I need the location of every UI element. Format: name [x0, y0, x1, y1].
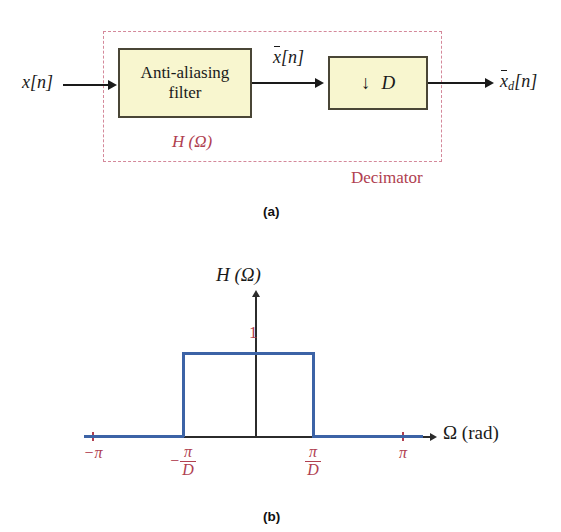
x-axis-arrow-head [430, 433, 437, 441]
x-axis-label: Ω (rad) [443, 422, 499, 444]
anti-aliasing-filter-block: Anti-aliasing filter [118, 48, 252, 118]
numerator-pi-right: π [305, 444, 321, 461]
signal-rising-edge [182, 352, 185, 437]
xtick-label-minus-pi: −π [76, 444, 110, 462]
signal-falling-edge [312, 352, 315, 437]
output-signal-label: xd[n] [500, 71, 537, 94]
signal-left-stopband [84, 435, 184, 438]
intermediate-signal-label: x[n] [273, 47, 304, 68]
plot-title: H (Ω) [216, 264, 261, 286]
output-arrow-head [485, 78, 494, 88]
signal-right-stopband [312, 435, 423, 438]
caption-a: (a) [263, 204, 280, 219]
xtick-label-pi-over-D: π D [295, 444, 331, 479]
figure-decimator: x[n] Anti-aliasing filter H (Ω) x[n] ↓D [0, 0, 561, 532]
down-arrow-icon: ↓ [361, 72, 371, 94]
caption-b: (b) [263, 509, 280, 524]
x-bar-d-glyph: x [500, 71, 508, 92]
mid-arrow-line [252, 82, 316, 84]
filter-label-line1: Anti-aliasing [141, 63, 230, 82]
output-arrow-line [428, 82, 486, 84]
mid-arrow-head [315, 78, 324, 88]
peak-value-label: 1 [249, 323, 258, 343]
y-axis-arrow-head [252, 290, 260, 297]
numerator-pi-left: π [180, 444, 196, 461]
x-bar-glyph: x [273, 47, 281, 68]
minus-sign-glyph: − [170, 452, 180, 470]
downsampler-block: ↓D [328, 56, 428, 110]
filter-label-line2: filter [168, 83, 201, 102]
xtick-label-minus-pi-over-D: − π D [157, 444, 209, 479]
input-arrow-head [108, 80, 117, 90]
y-axis-line [255, 296, 257, 437]
decimator-group-label: Decimator [351, 168, 423, 188]
denominator-D-right: D [305, 461, 321, 479]
xtick-label-pi: π [387, 444, 419, 462]
decimation-factor-label: D [381, 72, 395, 94]
denominator-D-left: D [180, 461, 196, 479]
filter-transfer-function-label: H (Ω) [172, 132, 212, 152]
input-signal-label: x[n] [22, 72, 53, 93]
signal-passband-top [182, 352, 315, 355]
input-arrow-line [63, 84, 109, 86]
output-bracket: [n] [514, 71, 537, 91]
